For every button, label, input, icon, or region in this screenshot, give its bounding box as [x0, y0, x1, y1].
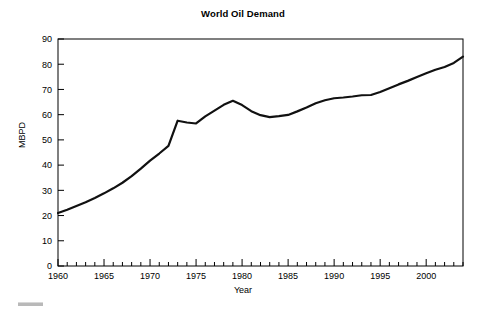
- x-tick-label: 2000: [416, 271, 436, 281]
- x-tick-label: 1990: [324, 271, 344, 281]
- line-chart-plot: 0102030405060708090 19601965197019751980…: [0, 0, 486, 312]
- x-axis-tick-labels: 196019651970197519801985199019952000: [48, 271, 436, 281]
- y-tick-label: 80: [42, 60, 52, 70]
- y-tick-label: 10: [42, 236, 52, 246]
- chart-figure: World Oil Demand MBPD Year 0102030405060…: [0, 0, 486, 312]
- x-tick-label: 1975: [186, 271, 206, 281]
- y-tick-label: 30: [42, 186, 52, 196]
- y-tick-label: 0: [47, 261, 52, 271]
- y-tick-label: 20: [42, 211, 52, 221]
- x-tick-label: 1980: [232, 271, 252, 281]
- x-tick-label: 1965: [94, 271, 114, 281]
- x-tick-label: 1995: [370, 271, 390, 281]
- x-tick-label: 1985: [278, 271, 298, 281]
- x-tick-label: 1970: [140, 271, 160, 281]
- y-tick-label: 50: [42, 135, 52, 145]
- plot-frame: [58, 39, 463, 266]
- y-tick-label: 40: [42, 160, 52, 170]
- y-tick-label: 60: [42, 110, 52, 120]
- y-axis-tick-labels: 0102030405060708090: [42, 34, 52, 271]
- y-tick-label: 70: [42, 85, 52, 95]
- y-tick-label: 90: [42, 34, 52, 44]
- scan-artifact-mark: [18, 302, 43, 306]
- x-tick-label: 1960: [48, 271, 68, 281]
